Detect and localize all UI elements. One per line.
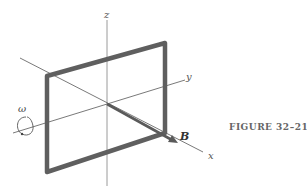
rotation-arrow-tip-icon (21, 133, 23, 135)
y-axis-line (13, 80, 185, 133)
field-vector-label: B (180, 131, 189, 142)
rotation-arrow-icon (17, 117, 33, 135)
figure-caption: FIGURE 32–21 (229, 123, 307, 132)
y-axis-label: y (186, 72, 192, 82)
z-axis-label: z (104, 10, 109, 20)
angular-velocity-label: ω (18, 104, 26, 114)
rotating-loop-diagram: z y x B ω FIGURE 32–21 (0, 0, 307, 187)
field-vector-shaft (107, 104, 172, 140)
current-loop (47, 43, 165, 172)
diagram-canvas (0, 0, 307, 187)
x-axis-label: x (208, 151, 214, 161)
